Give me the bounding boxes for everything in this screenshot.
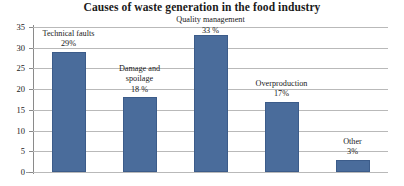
bar-label-name: Overproduction xyxy=(234,79,330,90)
bar xyxy=(265,102,299,172)
gridline xyxy=(33,172,388,173)
y-tick-mark xyxy=(29,172,33,173)
y-axis-tick-label: 15 xyxy=(3,105,25,115)
plot-area: 05101520253035Technical faults29%Damage … xyxy=(33,27,388,172)
y-axis-tick-label: 5 xyxy=(3,146,25,156)
chart-title: Causes of waste generation in the food i… xyxy=(0,1,404,13)
bar-label-name: Other xyxy=(305,137,401,148)
bar-label-percentage: 17% xyxy=(234,89,330,100)
bar-label-name: Quality management xyxy=(163,15,259,26)
bar-data-label: Other3% xyxy=(305,137,401,158)
bar xyxy=(52,52,86,172)
y-tick-mark xyxy=(29,89,33,90)
bar-label-name: Damage and xyxy=(92,64,188,75)
y-tick-mark xyxy=(29,131,33,132)
bar xyxy=(194,35,228,172)
bar-label-name: Technical faults xyxy=(21,29,117,40)
y-axis-tick-label: 25 xyxy=(3,63,25,73)
y-tick-mark xyxy=(29,68,33,69)
bar-label-percentage: 33 % xyxy=(163,26,259,37)
bar-data-label: Damage andspoilage18 % xyxy=(92,64,188,96)
y-axis-tick-label: 20 xyxy=(3,84,25,94)
y-axis-tick-label: 0 xyxy=(3,167,25,177)
bar xyxy=(336,160,370,172)
bar-label-percentage: 29% xyxy=(21,39,117,50)
bar-label-name: spoilage xyxy=(92,74,188,85)
y-tick-mark xyxy=(29,110,33,111)
y-tick-mark xyxy=(29,151,33,152)
bar-label-percentage: 3% xyxy=(305,147,401,158)
bar-data-label: Overproduction17% xyxy=(234,79,330,100)
y-tick-mark xyxy=(29,27,33,28)
bar xyxy=(123,97,157,172)
bar-chart: Causes of waste generation in the food i… xyxy=(0,0,404,186)
bar-label-percentage: 18 % xyxy=(92,85,188,96)
y-axis-tick-label: 10 xyxy=(3,126,25,136)
bar-data-label: Quality management33 % xyxy=(163,15,259,36)
bar-data-label: Technical faults29% xyxy=(21,29,117,50)
